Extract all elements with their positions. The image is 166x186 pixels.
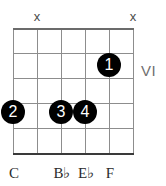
mute-marker-string-2: x bbox=[29, 9, 45, 25]
string-line-6 bbox=[133, 28, 134, 153]
note-label-string-1: C bbox=[1, 164, 27, 182]
note-label-string-3: B♭ bbox=[49, 164, 75, 182]
string-line-1 bbox=[13, 28, 14, 153]
fretboard-grid bbox=[0, 0, 166, 186]
fret-line-4 bbox=[13, 128, 134, 129]
finger-dot-3: 3 bbox=[49, 100, 73, 124]
fret-line-1 bbox=[13, 53, 134, 54]
finger-dot-2: 2 bbox=[1, 100, 25, 124]
guitar-chord-diagram: xx 1234 VI CB♭E♭F bbox=[0, 0, 166, 186]
mute-marker-string-6: x bbox=[125, 9, 141, 25]
string-line-3 bbox=[61, 28, 62, 153]
fret-line-3 bbox=[13, 103, 134, 104]
fret-line-2 bbox=[13, 78, 134, 79]
finger-dot-1: 1 bbox=[97, 53, 121, 77]
fret-line-0 bbox=[13, 28, 134, 30]
fret-position-marker: VI bbox=[141, 62, 156, 80]
fret-line-5 bbox=[13, 153, 134, 155]
note-label-string-4: E♭ bbox=[73, 164, 99, 182]
string-line-4 bbox=[85, 28, 86, 153]
string-line-5 bbox=[109, 28, 110, 153]
note-label-string-5: F bbox=[97, 164, 123, 182]
string-line-2 bbox=[37, 28, 38, 153]
finger-dot-4: 4 bbox=[73, 100, 97, 124]
